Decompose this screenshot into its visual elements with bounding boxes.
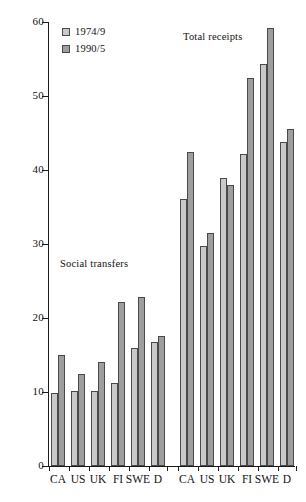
x-tick-label: D — [272, 473, 302, 486]
bar — [91, 391, 98, 466]
bar-chart: 0102030405060 % GDP CAUSUKFISWEDCAUSUKFI… — [0, 0, 306, 502]
bar — [200, 246, 207, 466]
bar — [58, 355, 65, 466]
bar — [260, 64, 267, 466]
bars-layer — [49, 22, 295, 466]
bar — [78, 374, 85, 466]
bar — [158, 336, 165, 466]
y-tick-label: 20 — [0, 312, 44, 323]
x-tick-mark — [198, 466, 199, 471]
x-tick-mark — [238, 466, 239, 471]
x-tick-mark — [149, 466, 150, 471]
y-tick-label: 10 — [0, 386, 44, 397]
x-tick-label: D — [143, 473, 173, 486]
x-tick-mark — [258, 466, 259, 471]
bar — [280, 142, 287, 466]
bar — [287, 129, 294, 466]
x-tick-mark — [178, 466, 179, 471]
x-tick-mark — [296, 466, 297, 471]
y-tick-label: 60 — [0, 16, 44, 27]
bar — [151, 342, 158, 466]
x-tick-mark — [89, 466, 90, 471]
x-tick-mark — [49, 466, 50, 471]
y-tick-label: 0 — [0, 460, 44, 471]
x-tick-mark — [109, 466, 110, 471]
x-tick-mark — [278, 466, 279, 471]
bar — [118, 302, 125, 466]
legend-item-1990-5: 1990/5 — [62, 41, 105, 56]
bar — [71, 391, 78, 466]
y-tick-label: 50 — [0, 90, 44, 101]
legend: 1974/9 1990/5 — [62, 24, 105, 58]
x-tick-mark — [167, 466, 168, 471]
legend-swatch-icon-series1 — [62, 28, 70, 36]
bar — [131, 348, 138, 466]
x-tick-mark — [218, 466, 219, 471]
bar — [227, 185, 234, 466]
bar — [180, 199, 187, 466]
legend-label-series2: 1990/5 — [75, 43, 105, 54]
bar — [247, 78, 254, 466]
bar — [138, 297, 145, 466]
legend-label-series1: 1974/9 — [75, 26, 105, 37]
x-tick-mark — [69, 466, 70, 471]
x-tick-mark — [129, 466, 130, 471]
bar — [98, 362, 105, 466]
bar — [220, 178, 227, 466]
bar — [111, 383, 118, 466]
bar — [187, 152, 194, 467]
y-tick-label: 40 — [0, 164, 44, 175]
annotation-social-transfers: Social transfers — [60, 258, 128, 269]
y-tick-label: 30 — [0, 238, 44, 249]
annotation-total-receipts: Total receipts — [183, 31, 243, 42]
bar — [267, 28, 274, 466]
bar — [207, 233, 214, 466]
bar — [51, 393, 58, 466]
legend-swatch-icon-series2 — [62, 45, 70, 53]
bar — [240, 154, 247, 466]
legend-item-1974-9: 1974/9 — [62, 24, 105, 39]
